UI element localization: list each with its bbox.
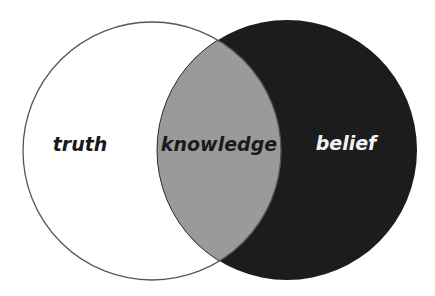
belief-label: belief — [316, 132, 379, 154]
truth-label: truth — [53, 133, 108, 155]
venn-diagram: truth knowledge belief — [0, 0, 435, 296]
knowledge-label: knowledge — [161, 133, 277, 155]
